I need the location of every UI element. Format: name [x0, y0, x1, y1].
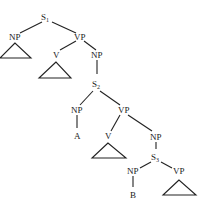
node-np5: NP — [127, 166, 139, 176]
edge-s3-vp — [161, 162, 172, 168]
syntax-tree-diagram: S1 NP VP V NP S2 NP A VP V NP S3 NP B VP — [0, 0, 211, 215]
node-np1: NP — [9, 32, 21, 42]
tree-edges — [20, 22, 172, 187]
triangle-icon-v2 — [92, 143, 126, 158]
node-s2: S2 — [92, 79, 100, 90]
node-np3: NP — [71, 105, 83, 115]
triangle-icon-vp3 — [163, 180, 196, 195]
node-vp3: VP — [173, 166, 185, 176]
triangle-icon-np1 — [0, 43, 31, 58]
node-np4: NP — [150, 132, 162, 142]
node-vp2: VP — [118, 105, 130, 115]
edge-vp-np — [84, 41, 96, 50]
node-s3: S3 — [151, 152, 159, 163]
node-vp1: VP — [74, 32, 86, 42]
subtree-triangles — [0, 43, 196, 195]
node-np2: NP — [91, 50, 103, 60]
tree-labels: S1 NP VP V NP S2 NP A VP V NP S3 NP B VP — [9, 12, 185, 200]
edge-s2-np — [80, 91, 93, 105]
edge-s1-np — [20, 22, 42, 33]
edge-s1-vp — [52, 22, 76, 33]
triangle-icon-v1 — [39, 62, 71, 78]
node-b: B — [130, 190, 136, 200]
edge-s2-vp — [100, 91, 120, 105]
node-v2: V — [105, 131, 112, 141]
node-s1: S1 — [41, 12, 49, 23]
edge-vp2-v — [111, 115, 120, 131]
edge-vp-v — [60, 41, 76, 50]
edge-s3-np — [140, 162, 151, 168]
node-v1: V — [53, 50, 60, 60]
node-a: A — [74, 131, 81, 141]
edge-vp2-np — [128, 115, 152, 131]
